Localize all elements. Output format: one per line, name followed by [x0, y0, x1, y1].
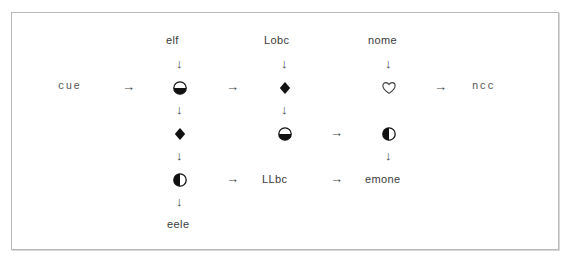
- circle-left-half-filled-icon: [381, 126, 397, 142]
- node-label-n-end-right: ncc: [472, 80, 495, 92]
- arrow-right-icon: →: [330, 126, 343, 139]
- heart-outline-icon: [381, 80, 397, 96]
- diamond-filled-icon: [172, 126, 188, 142]
- node-label-n-col2-bottom: LLbc: [262, 173, 287, 185]
- node-label-n-col3-top: nome: [368, 34, 397, 46]
- arrow-down-icon: ↓: [281, 103, 288, 116]
- diamond-filled-icon: [277, 80, 293, 96]
- node-label-n-start-left: cue: [58, 80, 81, 92]
- arrow-right-icon: →: [226, 80, 239, 93]
- arrow-down-icon: ↓: [176, 103, 183, 116]
- arrow-down-icon: ↓: [176, 57, 183, 70]
- node-label-n-col1-top: elf: [166, 34, 179, 46]
- arrow-right-icon: →: [226, 172, 239, 185]
- arrow-down-icon: ↓: [385, 149, 392, 162]
- arrow-down-icon: ↓: [176, 195, 183, 208]
- arrow-down-icon: ↓: [385, 57, 392, 70]
- arrow-right-icon: →: [330, 172, 343, 185]
- figure-root: cueelfLobcnomencceeleLLbcemone →→→→→→↓↓↓…: [0, 0, 572, 265]
- arrow-right-icon: →: [434, 80, 447, 93]
- node-label-n-col3-bottom: emone: [365, 173, 401, 185]
- arrow-right-icon: →: [122, 80, 135, 93]
- arrow-down-icon: ↓: [176, 149, 183, 162]
- node-label-n-col2-top: Lobc: [264, 34, 289, 46]
- node-label-n-col1-bottom: eele: [167, 218, 189, 230]
- arrow-down-icon: ↓: [281, 57, 288, 70]
- circle-bottom-half-filled-icon: [277, 126, 293, 142]
- circle-left-half-filled-icon: [172, 172, 188, 188]
- circle-bottom-half-filled-icon: [172, 80, 188, 96]
